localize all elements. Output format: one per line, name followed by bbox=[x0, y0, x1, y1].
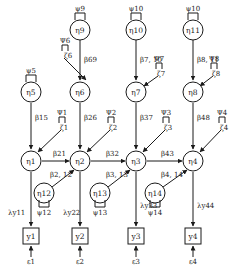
label-l22: λy22 bbox=[63, 209, 80, 217]
label-zeta6: ζ6 bbox=[64, 52, 73, 60]
label-l44: λy44 bbox=[197, 202, 215, 210]
loop-psi9 bbox=[75, 13, 85, 20]
label-b43: β43 bbox=[161, 150, 174, 158]
label-psi9: ψ9 bbox=[75, 5, 85, 13]
label-psi1: Ψ1 bbox=[57, 109, 68, 117]
path-zeta1 bbox=[38, 130, 61, 152]
label-eta10: η10 bbox=[129, 26, 143, 35]
label-eta11: η11 bbox=[186, 26, 200, 35]
label-b2-12: β2, 12 bbox=[50, 171, 72, 179]
loop-psi1 bbox=[59, 117, 65, 123]
path-zeta4 bbox=[200, 130, 221, 152]
label-eta5: η5 bbox=[26, 88, 35, 97]
label-b4-14: β4, 14 bbox=[161, 171, 183, 179]
label-zeta1: ζ1 bbox=[60, 124, 68, 132]
label-eta7: η7 bbox=[131, 88, 140, 97]
label-eta8: η8 bbox=[188, 88, 197, 97]
label-b8-11: β8, 11 bbox=[197, 56, 219, 64]
label-psi3: Ψ3 bbox=[161, 109, 172, 117]
label-zeta4: ζ4 bbox=[220, 124, 229, 132]
label-b7-10: β7, 10 bbox=[140, 56, 162, 64]
path-zeta2 bbox=[87, 130, 110, 152]
loop-psi6 bbox=[62, 45, 68, 51]
loop-psi5 bbox=[26, 75, 36, 82]
label-zeta7: ζ7 bbox=[157, 70, 165, 78]
loop-psi-eta11 bbox=[188, 13, 198, 20]
label-b69: β69 bbox=[84, 56, 97, 64]
label-zeta2: ζ2 bbox=[109, 124, 117, 132]
loop-psi10 bbox=[131, 13, 141, 20]
label-zeta8: ζ8 bbox=[212, 70, 220, 78]
label-b26: β26 bbox=[84, 114, 98, 122]
loop-psi4 bbox=[219, 117, 225, 123]
label-e3: ε3 bbox=[132, 258, 140, 265]
label-eta2: η2 bbox=[75, 157, 84, 166]
label-psi6: Ψ6 bbox=[60, 37, 71, 45]
path-diagram: η9 η10 η11 η5 η6 η7 η8 η1 η2 η3 η4 η12 η… bbox=[0, 0, 238, 265]
label-eta14: η14 bbox=[148, 189, 162, 198]
loop-psi2 bbox=[108, 117, 114, 123]
label-y1: y1 bbox=[25, 232, 35, 241]
label-psi5: ψ5 bbox=[26, 67, 36, 75]
label-eta9: η9 bbox=[75, 26, 84, 35]
label-psi4: Ψ4 bbox=[217, 109, 228, 117]
label-b21: β21 bbox=[53, 150, 66, 158]
label-b32: β32 bbox=[106, 150, 119, 158]
path-zeta3 bbox=[143, 130, 165, 152]
label-e4: ε4 bbox=[189, 258, 198, 265]
label-eta1: η1 bbox=[26, 157, 35, 166]
label-eta6: η6 bbox=[75, 88, 84, 97]
label-eta4: η4 bbox=[188, 157, 197, 166]
path-zeta6 bbox=[64, 58, 86, 80]
label-y3: y3 bbox=[130, 232, 140, 241]
label-psi13: ψ13 bbox=[93, 209, 107, 217]
label-psi2: Ψ2 bbox=[106, 109, 117, 117]
label-y4: y4 bbox=[187, 232, 197, 241]
label-eta13: η13 bbox=[93, 189, 107, 198]
label-b37: β37 bbox=[140, 114, 153, 122]
label-eta3: η3 bbox=[131, 157, 140, 166]
loop-psi3 bbox=[163, 117, 169, 123]
label-b3-13: β3, 13 bbox=[106, 171, 128, 179]
label-e2: ε2 bbox=[76, 258, 84, 265]
label-l33: λy33 bbox=[140, 202, 157, 210]
label-b48: β48 bbox=[197, 114, 210, 122]
label-eta12: η12 bbox=[37, 189, 51, 198]
label-l11: λy11 bbox=[8, 209, 25, 217]
label-psi14: ψ14 bbox=[148, 209, 163, 217]
label-b15: β15 bbox=[35, 114, 48, 122]
label-zeta3: ζ3 bbox=[164, 124, 172, 132]
label-psi12: ψ12 bbox=[37, 209, 51, 217]
label-y2: y2 bbox=[74, 232, 84, 241]
label-e1: ε1 bbox=[27, 258, 35, 265]
label-psi-eta11: ψ10 bbox=[186, 5, 200, 13]
diagram-svg: η9 η10 η11 η5 η6 η7 η8 η1 η2 η3 η4 η12 η… bbox=[0, 0, 238, 265]
label-psi10: ψ10 bbox=[129, 5, 143, 13]
